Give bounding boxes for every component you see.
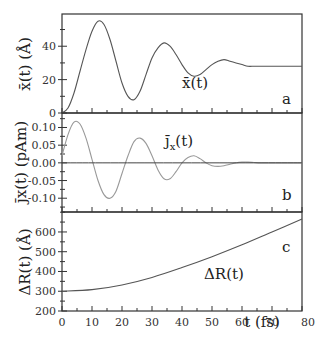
- panel-a-frame: [62, 14, 302, 113]
- x-tick-label: 30: [145, 316, 159, 329]
- y-tick-label: 200: [35, 305, 56, 318]
- y-tick-label: 600: [35, 226, 56, 239]
- series-a: [62, 21, 302, 113]
- y-tick-label: -0.05: [28, 175, 56, 188]
- panel-b-ylabel: j̄x(t) (pAm): [12, 121, 30, 205]
- y-tick-label: 20: [42, 74, 56, 87]
- panel-c-ylabel: ΔR(t) (Å): [16, 228, 34, 295]
- x-tick-label: 20: [115, 316, 129, 329]
- panel-c-letter: c: [282, 238, 290, 256]
- y-tick-label: -0.10: [28, 192, 56, 205]
- x-tick-label: 0: [59, 316, 66, 329]
- panel-c-curve-label: ΔR(t): [204, 265, 244, 283]
- y-tick-label: 40: [42, 40, 56, 53]
- y-tick-label: 500: [35, 246, 56, 259]
- x-tick-label: 40: [175, 316, 189, 329]
- y-tick-label: 400: [35, 265, 56, 278]
- x-tick-label: 50: [205, 316, 219, 329]
- panel-a-ylabel: x̄(t) (Å): [16, 37, 34, 91]
- panel-c-frame: [62, 212, 302, 311]
- chart-figure: 020400.100.050.00-0.05-0.102003004005006…: [0, 0, 322, 347]
- panel-a-curve-label: x̄(t): [182, 74, 208, 92]
- panel-a-letter: a: [282, 90, 291, 108]
- panel-b-letter: b: [282, 186, 292, 204]
- y-tick-label: 0: [49, 107, 56, 120]
- series-c: [62, 219, 302, 291]
- x-tick-label: 80: [301, 316, 315, 329]
- y-tick-label: 0.10: [32, 121, 57, 134]
- x-axis-label: t (fs): [244, 313, 280, 331]
- y-tick-label: 0.00: [32, 157, 57, 170]
- y-tick-label: 300: [35, 285, 56, 298]
- y-tick-label: 0.05: [32, 139, 57, 152]
- panel-b-curve-label: j̄x(t): [163, 132, 193, 152]
- x-tick-label: 10: [85, 316, 99, 329]
